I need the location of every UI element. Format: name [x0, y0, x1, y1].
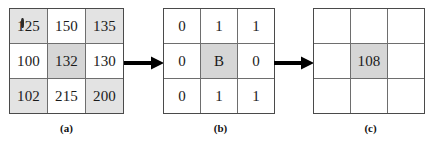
- grid-cell: [314, 79, 350, 113]
- grid-cell: 125: [10, 9, 47, 43]
- grid-cell: 1: [201, 9, 237, 43]
- grid-cell: [388, 9, 424, 43]
- grid-cell: [388, 79, 424, 113]
- figure-container: 125 150 135 100 132 130 102 215 200 0 1 …: [0, 0, 429, 144]
- intensity-grid: 125 150 135 100 132 130 102 215 200: [9, 8, 124, 114]
- grid-cell: 0: [164, 79, 200, 113]
- grid-cell-center: 132: [48, 44, 85, 78]
- grid-cell: 1: [201, 79, 237, 113]
- speck-artifact-icon: [21, 18, 24, 28]
- binary-grid: 0 1 1 0 B 0 0 1 1: [163, 8, 275, 114]
- grid-cell: 135: [86, 9, 123, 43]
- grid-cell: [351, 9, 387, 43]
- grid-cell-center: 108: [351, 44, 387, 78]
- caption-a: (a): [9, 122, 124, 134]
- grid-cell: [314, 44, 350, 78]
- grid-cell: 0: [164, 9, 200, 43]
- grid-cell: [314, 9, 350, 43]
- grid-cell-center: B: [201, 44, 237, 78]
- grid-cell: [388, 44, 424, 78]
- grid-cell: 215: [48, 79, 85, 113]
- grid-cell: 200: [86, 79, 123, 113]
- grid-cell: 1: [238, 79, 274, 113]
- grid-cell: 1: [238, 9, 274, 43]
- panel-a: 125 150 135 100 132 130 102 215 200: [9, 8, 124, 114]
- grid-cell: 100: [10, 44, 47, 78]
- grid-cell: 102: [10, 79, 47, 113]
- arrow-a-to-b-icon: [124, 56, 164, 70]
- result-grid: 108: [313, 8, 425, 114]
- caption-c: (c): [313, 122, 428, 134]
- panel-c: 108: [313, 8, 425, 114]
- grid-cell: 130: [86, 44, 123, 78]
- grid-cell: 150: [48, 9, 85, 43]
- grid-cell: 0: [164, 44, 200, 78]
- grid-cell: 0: [238, 44, 274, 78]
- panel-b: 0 1 1 0 B 0 0 1 1: [163, 8, 275, 114]
- caption-b: (b): [163, 122, 278, 134]
- arrow-b-to-c-icon: [274, 56, 314, 70]
- grid-cell: [351, 79, 387, 113]
